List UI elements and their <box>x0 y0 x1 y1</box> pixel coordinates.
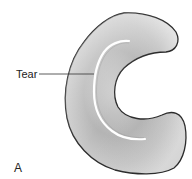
tear-label: Tear <box>16 69 37 80</box>
meniscus-diagram <box>0 0 192 179</box>
meniscus-highlight <box>65 13 186 174</box>
panel-label: A <box>14 162 22 174</box>
